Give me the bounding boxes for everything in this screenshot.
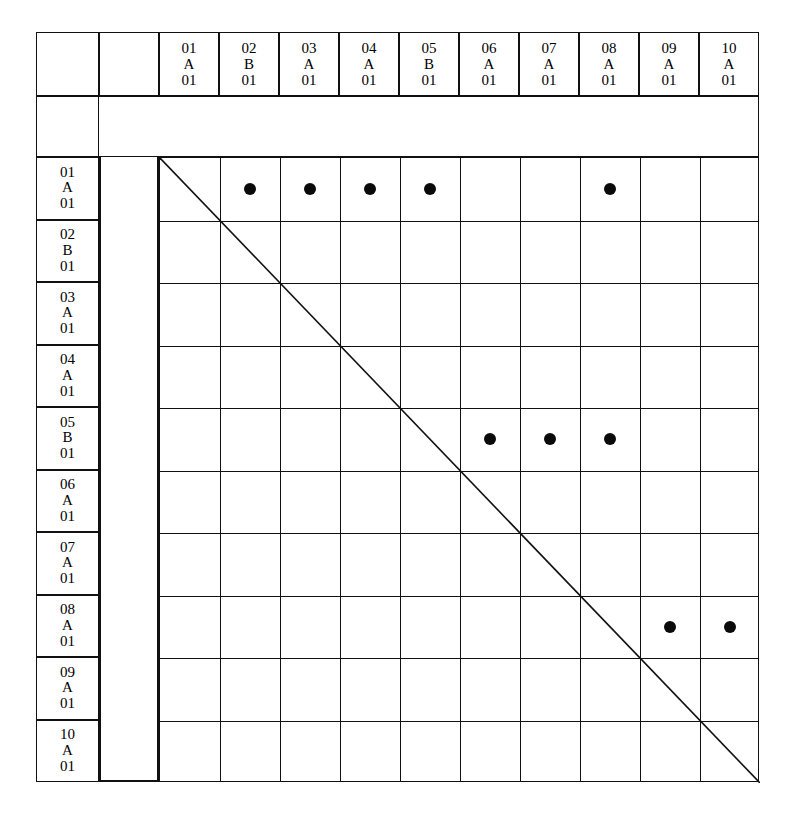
row-header-07A01[interactable]: 07A01 (36, 532, 99, 595)
matrix-cell-09A01-09A01[interactable] (640, 658, 700, 721)
matrix-cell-04A01-06A01[interactable] (460, 346, 520, 409)
matrix-cell-08A01-04A01[interactable] (340, 596, 400, 659)
matrix-cell-04A01-04A01[interactable] (340, 346, 400, 409)
matrix-cell-08A01-07A01[interactable] (520, 596, 580, 659)
matrix-cell-01A01-07A01[interactable] (520, 158, 580, 221)
matrix-cell-10A01-05B01[interactable] (400, 721, 460, 784)
matrix-cell-02B01-02B01[interactable] (220, 221, 280, 284)
matrix-cell-06A01-10A01[interactable] (700, 471, 760, 534)
matrix-cell-09A01-05B01[interactable] (400, 658, 460, 721)
matrix-cell-05B01-04A01[interactable] (340, 408, 400, 471)
matrix-cell-03A01-07A01[interactable] (520, 283, 580, 346)
row-header-06A01[interactable]: 06A01 (36, 470, 99, 533)
matrix-cell-09A01-07A01[interactable] (520, 658, 580, 721)
matrix-cell-07A01-06A01[interactable] (460, 533, 520, 596)
matrix-cell-10A01-03A01[interactable] (280, 721, 340, 784)
matrix-cell-01A01-01A01[interactable] (160, 158, 220, 221)
matrix-cell-10A01-02B01[interactable] (220, 721, 280, 784)
matrix-cell-03A01-06A01[interactable] (460, 283, 520, 346)
matrix-cell-02B01-07A01[interactable] (520, 221, 580, 284)
column-header-07A01[interactable]: 07A01 (519, 32, 579, 96)
column-header-08A01[interactable]: 08A01 (579, 32, 639, 96)
matrix-cell-04A01-02B01[interactable] (220, 346, 280, 409)
matrix-cell-08A01-02B01[interactable] (220, 596, 280, 659)
matrix-cell-08A01-05B01[interactable] (400, 596, 460, 659)
matrix-cell-05B01-02B01[interactable] (220, 408, 280, 471)
matrix-cell-04A01-08A01[interactable] (580, 346, 640, 409)
matrix-cell-04A01-07A01[interactable] (520, 346, 580, 409)
column-header-06A01[interactable]: 06A01 (459, 32, 519, 96)
row-header-08A01[interactable]: 08A01 (36, 595, 99, 658)
matrix-cell-07A01-10A01[interactable] (700, 533, 760, 596)
matrix-cell-09A01-04A01[interactable] (340, 658, 400, 721)
matrix-cell-07A01-08A01[interactable] (580, 533, 640, 596)
matrix-cell-02B01-04A01[interactable] (340, 221, 400, 284)
column-header-04A01[interactable]: 04A01 (339, 32, 399, 96)
column-header-01A01[interactable]: 01A01 (159, 32, 219, 96)
matrix-cell-10A01-09A01[interactable] (640, 721, 700, 784)
matrix-cell-03A01-10A01[interactable] (700, 283, 760, 346)
matrix-cell-06A01-02B01[interactable] (220, 471, 280, 534)
matrix-cell-10A01-06A01[interactable] (460, 721, 520, 784)
matrix-cell-07A01-07A01[interactable] (520, 533, 580, 596)
matrix-cell-07A01-09A01[interactable] (640, 533, 700, 596)
matrix-cell-06A01-04A01[interactable] (340, 471, 400, 534)
matrix-cell-08A01-08A01[interactable] (580, 596, 640, 659)
matrix-cell-06A01-07A01[interactable] (520, 471, 580, 534)
row-header-09A01[interactable]: 09A01 (36, 657, 99, 720)
matrix-cell-08A01-06A01[interactable] (460, 596, 520, 659)
matrix-cell-03A01-09A01[interactable] (640, 283, 700, 346)
interaction-marker-08A01-09A01[interactable] (664, 621, 676, 633)
matrix-cell-09A01-08A01[interactable] (580, 658, 640, 721)
matrix-cell-04A01-03A01[interactable] (280, 346, 340, 409)
matrix-cell-02B01-01A01[interactable] (160, 221, 220, 284)
matrix-cell-07A01-04A01[interactable] (340, 533, 400, 596)
matrix-cell-05B01-05B01[interactable] (400, 408, 460, 471)
matrix-cell-03A01-04A01[interactable] (340, 283, 400, 346)
matrix-cell-10A01-01A01[interactable] (160, 721, 220, 784)
column-header-03A01[interactable]: 03A01 (279, 32, 339, 96)
row-header-04A01[interactable]: 04A01 (36, 345, 99, 408)
matrix-cell-10A01-10A01[interactable] (700, 721, 760, 784)
row-header-02B01[interactable]: 02B01 (36, 220, 99, 283)
matrix-cell-07A01-01A01[interactable] (160, 533, 220, 596)
matrix-cell-09A01-02B01[interactable] (220, 658, 280, 721)
column-header-09A01[interactable]: 09A01 (639, 32, 699, 96)
matrix-cell-02B01-08A01[interactable] (580, 221, 640, 284)
column-header-05B01[interactable]: 05B01 (399, 32, 459, 96)
matrix-cell-04A01-05B01[interactable] (400, 346, 460, 409)
matrix-cell-08A01-03A01[interactable] (280, 596, 340, 659)
matrix-cell-03A01-03A01[interactable] (280, 283, 340, 346)
matrix-cell-05B01-01A01[interactable] (160, 408, 220, 471)
matrix-cell-09A01-06A01[interactable] (460, 658, 520, 721)
matrix-cell-01A01-09A01[interactable] (640, 158, 700, 221)
matrix-cell-05B01-10A01[interactable] (700, 408, 760, 471)
column-header-10A01[interactable]: 10A01 (699, 32, 759, 96)
row-header-01A01[interactable]: 01A01 (36, 157, 99, 220)
matrix-cell-05B01-09A01[interactable] (640, 408, 700, 471)
interaction-marker-08A01-10A01[interactable] (724, 621, 736, 633)
matrix-cell-06A01-09A01[interactable] (640, 471, 700, 534)
matrix-cell-03A01-05B01[interactable] (400, 283, 460, 346)
matrix-cell-03A01-02B01[interactable] (220, 283, 280, 346)
matrix-cell-09A01-03A01[interactable] (280, 658, 340, 721)
matrix-cell-03A01-08A01[interactable] (580, 283, 640, 346)
matrix-cell-06A01-01A01[interactable] (160, 471, 220, 534)
matrix-cell-10A01-04A01[interactable] (340, 721, 400, 784)
matrix-cell-06A01-05B01[interactable] (400, 471, 460, 534)
matrix-cell-06A01-06A01[interactable] (460, 471, 520, 534)
matrix-cell-02B01-05B01[interactable] (400, 221, 460, 284)
row-header-10A01[interactable]: 10A01 (36, 720, 99, 783)
matrix-cell-01A01-06A01[interactable] (460, 158, 520, 221)
matrix-cell-07A01-03A01[interactable] (280, 533, 340, 596)
column-header-02B01[interactable]: 02B01 (219, 32, 279, 96)
matrix-cell-09A01-10A01[interactable] (700, 658, 760, 721)
matrix-cell-10A01-08A01[interactable] (580, 721, 640, 784)
matrix-cell-05B01-03A01[interactable] (280, 408, 340, 471)
matrix-cell-02B01-03A01[interactable] (280, 221, 340, 284)
matrix-cell-07A01-02B01[interactable] (220, 533, 280, 596)
matrix-cell-04A01-10A01[interactable] (700, 346, 760, 409)
matrix-cell-06A01-03A01[interactable] (280, 471, 340, 534)
matrix-cell-06A01-08A01[interactable] (580, 471, 640, 534)
row-header-05B01[interactable]: 05B01 (36, 407, 99, 470)
